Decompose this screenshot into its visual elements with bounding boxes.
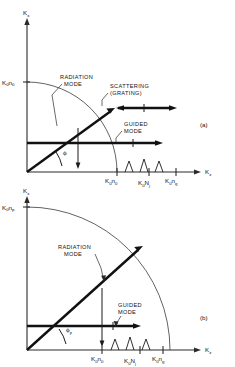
panel-a-y-axis-label: Kx <box>23 9 30 18</box>
panel-a-letter: (a) <box>200 121 208 128</box>
panel-a-projection-arrowhead <box>76 163 81 170</box>
panel-b-xtick-label-2: K0Nj <box>124 357 136 366</box>
panel-a-angle-label: ϕ <box>63 149 67 157</box>
panel-b-mode-peak-2 <box>126 337 134 350</box>
figure-container: Kx Kz K0n0 ϕ RADIATION MODE SCATTERING <box>0 0 235 367</box>
panel-b-radiation-mode-label-line1: RADIATION <box>58 244 91 250</box>
kspace-diagram-svg: Kx Kz K0n0 ϕ RADIATION MODE SCATTERING <box>0 0 235 367</box>
panel-b-guided-label-line1: GUIDED <box>118 302 142 308</box>
panel-b-radiation-ray-arrowhead <box>134 246 143 251</box>
panel-b-radiation-ray <box>27 250 138 350</box>
panel-b-radiation-mode-label-line2: MODE <box>64 251 82 257</box>
panel-a-scattering-label-line1: SCATTERING <box>110 83 149 89</box>
panel-a-mode-peak-3 <box>155 161 163 172</box>
panel-b: Kx Kz K0np ϕp RADIATION MODE GUIDED MODE <box>2 187 211 366</box>
panel-a-scattering-arrowhead-right <box>169 105 177 111</box>
panel-b-xtick-label-1: K0n0 <box>91 355 104 364</box>
panel-a-xtick-label-3: K0ng <box>165 177 178 186</box>
panel-b-y-intercept-label: K0np <box>2 204 15 213</box>
panel-a-xtick-label-2: K0Nj <box>138 179 150 188</box>
panel-a-angle-arc <box>56 152 62 166</box>
panel-a-xtick-label-1: K0n0 <box>105 177 118 186</box>
panel-a-scattering-arrowhead-left <box>116 105 124 111</box>
panel-b-radiation-mode-leader <box>95 254 103 277</box>
panel-b-angle-label: ϕp <box>66 326 73 335</box>
panel-a-radiation-ray <box>27 111 111 172</box>
panel-a-scattering-leader <box>102 93 108 106</box>
panel-b-guided-label-line2: MODE <box>118 309 136 315</box>
panel-a-radiation-mode-label-line1: RADIATION <box>60 74 93 80</box>
panel-a-guided-leader <box>116 131 122 142</box>
panel-b-angle-arc <box>59 329 66 344</box>
panel-a-y-axis-arrowhead <box>24 18 29 25</box>
panel-a-mode-peak-1 <box>125 161 133 172</box>
panel-b-y-axis-arrowhead <box>24 196 29 203</box>
panel-a-guided-label-line2: MODE <box>124 128 142 134</box>
panel-a-scattering-label-line2: (GRATING) <box>110 90 142 96</box>
panel-a: Kx Kz K0n0 ϕ RADIATION MODE SCATTERING <box>2 9 211 188</box>
panel-b-y-axis-label: Kx <box>23 187 30 196</box>
panel-a-guided-arrowhead <box>155 140 163 146</box>
panel-a-mode-peak-2 <box>140 159 148 172</box>
panel-b-xtick-label-3: K0ng <box>152 355 165 364</box>
panel-a-guided-label-line1: GUIDED <box>124 121 148 127</box>
panel-a-radiation-circle-arc <box>27 82 117 172</box>
panel-a-x-axis-label: Kz <box>205 168 211 177</box>
panel-b-letter: (b) <box>200 314 208 321</box>
panel-b-x-axis-arrowhead <box>194 347 201 352</box>
panel-a-x-axis-arrowhead <box>194 169 201 174</box>
panel-a-radiation-mode-leader <box>52 84 62 126</box>
panel-b-radiation-circle-arc <box>27 207 170 350</box>
panel-b-x-axis-label: Kz <box>205 346 211 355</box>
panel-b-guided-arrowhead <box>133 323 141 329</box>
panel-b-mode-peak-3 <box>142 339 150 350</box>
panel-b-mode-peak-1 <box>111 339 119 350</box>
panel-a-y-intercept-label: K0n0 <box>2 79 15 88</box>
panel-a-radiation-mode-label-line2: MODE <box>64 81 82 87</box>
